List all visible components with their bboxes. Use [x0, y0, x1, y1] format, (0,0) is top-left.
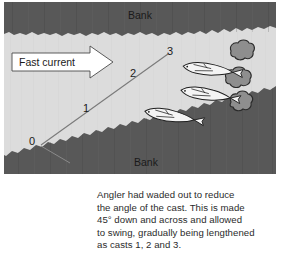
rock-icon: [230, 91, 253, 111]
river-illustration: Bank Bank Fast current 0 1 2 3: [4, 2, 276, 178]
figure-page: Bank Bank Fast current 0 1 2 3 Angler ha…: [0, 0, 285, 256]
rock-icon: [230, 40, 254, 60]
fast-current-label: Fast current: [19, 56, 75, 68]
figure-caption: Angler had waded out to reduce the angle…: [97, 189, 283, 252]
bank-label-top: Bank: [128, 9, 153, 21]
bank-label-bottom: Bank: [134, 156, 159, 168]
page-corner-mask: [4, 174, 276, 178]
cast-label-0: 0: [29, 135, 35, 147]
cast-label-2: 2: [130, 67, 136, 79]
cast-label-1: 1: [83, 102, 89, 114]
cast-label-3: 3: [167, 45, 173, 57]
